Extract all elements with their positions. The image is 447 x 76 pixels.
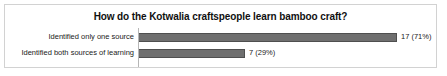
- category-label-identified-both-sources-of-learning: Identified both sources of learning: [0, 48, 134, 57]
- category-label-identified-only-one-source: Identified only one source: [0, 32, 134, 41]
- bar-row: Identified only one source 17 (71%): [5, 29, 438, 45]
- bar-value-label: 17 (71%): [401, 32, 431, 41]
- chart-title: How do the Kotwalia craftspeople learn b…: [5, 11, 436, 22]
- bar-track: [139, 33, 397, 42]
- bar-identified-both-sources-of-learning[interactable]: [139, 49, 245, 58]
- bar-row: Identified both sources of learning 7 (2…: [5, 45, 438, 61]
- plot-area: Identified only one source 17 (71%) Iden…: [5, 27, 438, 69]
- bar-value-label: 7 (29%): [249, 48, 275, 57]
- bar-identified-only-one-source[interactable]: [139, 33, 397, 42]
- bar-track: [139, 49, 245, 58]
- chart-frame: How do the Kotwalia craftspeople learn b…: [4, 4, 437, 68]
